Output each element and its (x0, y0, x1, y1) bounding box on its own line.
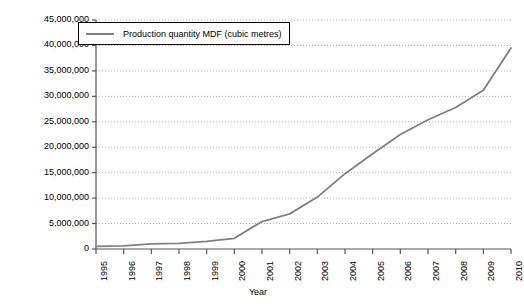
chart-legend: Production quantity MDF (cubic metres) (78, 22, 290, 45)
x-axis-tick-label: 2010 (515, 261, 524, 281)
y-axis-tick-label: 5,000,000 (49, 219, 89, 228)
x-axis-tick-label: 2000 (238, 261, 247, 281)
x-axis-tick-label: 2008 (460, 261, 469, 281)
x-axis-tick-label: 2001 (266, 261, 275, 281)
y-axis-tick-label: 25,000,000 (44, 117, 89, 126)
x-axis-tick-label: 1999 (211, 261, 220, 281)
x-axis-tick-label: 2007 (432, 261, 441, 281)
x-axis-tick-label: 2002 (294, 261, 303, 281)
x-axis-tick-label: 1998 (183, 261, 192, 281)
y-axis-tick-label: 35,000,000 (44, 66, 89, 75)
x-axis-tick-label: 1995 (100, 261, 109, 281)
gridlines-group (96, 20, 511, 224)
x-axis-tick-label: 2004 (349, 261, 358, 281)
y-axis-tick-label: 20,000,000 (44, 142, 89, 151)
x-axis-title: Year (0, 288, 516, 297)
x-axis-tick-label: 1997 (155, 261, 164, 281)
x-axis-tick-label: 1996 (128, 261, 137, 281)
legend-line-swatch (86, 33, 114, 35)
x-axis-tick-label: 2003 (321, 261, 330, 281)
x-axis-tick-label: 2005 (377, 261, 386, 281)
axis-lines-group (96, 20, 511, 249)
y-axis-tick-label: 15,000,000 (44, 168, 89, 177)
x-axis-tick-label: 2006 (404, 261, 413, 281)
y-axis-tick-label: 30,000,000 (44, 91, 89, 100)
axis-ticks-group (92, 20, 511, 254)
y-axis-tick-label: 10,000,000 (44, 193, 89, 202)
x-axis-tick-label: 2009 (487, 261, 496, 281)
legend-label: Production quantity MDF (cubic metres) (123, 29, 282, 39)
y-axis-tick-label: 0 (84, 244, 89, 253)
